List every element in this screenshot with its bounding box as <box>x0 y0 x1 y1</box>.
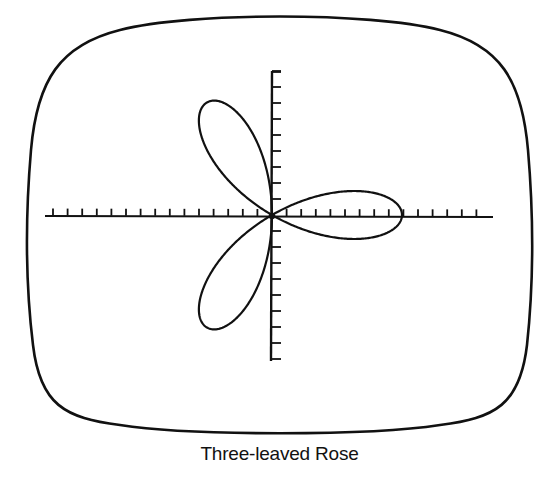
origin-point <box>269 213 275 219</box>
screen-frame <box>27 17 533 434</box>
figure-caption: Three-leaved Rose <box>0 443 559 465</box>
rose-figure <box>0 0 559 485</box>
